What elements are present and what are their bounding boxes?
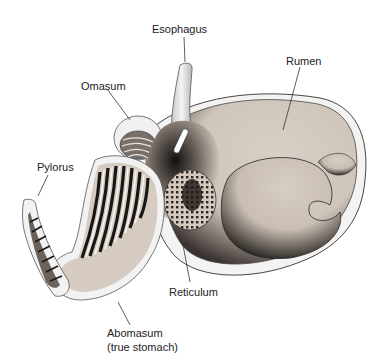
label-rumen: Rumen xyxy=(286,55,321,68)
pylorus xyxy=(23,199,70,296)
label-abomasum-subtitle: (true stomach) xyxy=(107,341,178,354)
label-esophagus: Esophagus xyxy=(152,23,207,36)
label-reticulum: Reticulum xyxy=(169,286,218,299)
stomach-diagram xyxy=(0,0,383,361)
label-omasum: Omasum xyxy=(81,80,126,93)
label-pylorus: Pylorus xyxy=(37,161,74,174)
label-abomasum: Abomasum xyxy=(107,327,163,340)
